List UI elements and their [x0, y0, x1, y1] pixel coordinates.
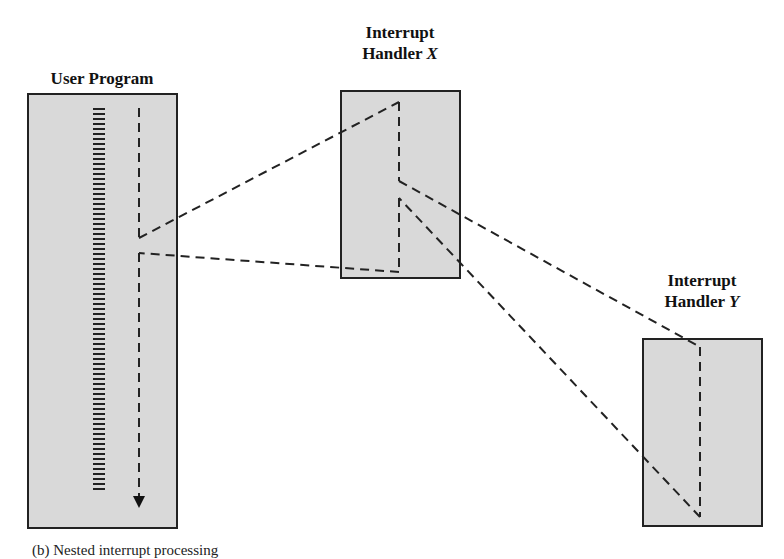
figure-caption: (b) Nested interrupt processing — [32, 542, 218, 559]
arrow-down-icon — [133, 496, 145, 508]
return-to-x — [399, 198, 700, 517]
interrupt-y-call — [399, 181, 700, 347]
interrupt-x-call — [139, 102, 399, 238]
return-to-user — [139, 253, 399, 272]
instruction-stripes — [93, 108, 105, 492]
